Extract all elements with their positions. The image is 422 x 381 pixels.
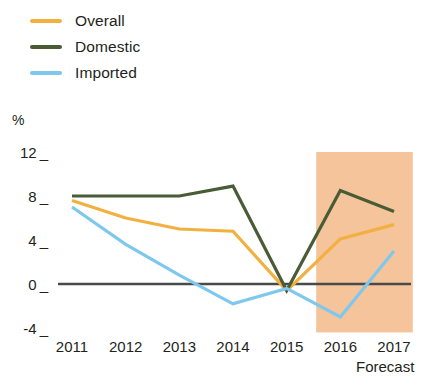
chart-container: Overall Domestic Imported % 12_ 8_ 4_ 0_… [0, 0, 422, 381]
plot-area [0, 0, 422, 381]
x-tick-2011: 2011 [56, 338, 88, 355]
x-tick-2013: 2013 [163, 338, 196, 355]
forecast-shaded-region [316, 152, 413, 332]
x-tick-2017: 2017 [377, 338, 410, 355]
x-tick-2012: 2012 [109, 338, 142, 355]
x-tick-2016: 2016 [324, 338, 357, 355]
x-tick-2015: 2015 [270, 338, 303, 355]
forecast-annotation-label: Forecast [356, 358, 414, 375]
x-tick-2014: 2014 [216, 338, 249, 355]
